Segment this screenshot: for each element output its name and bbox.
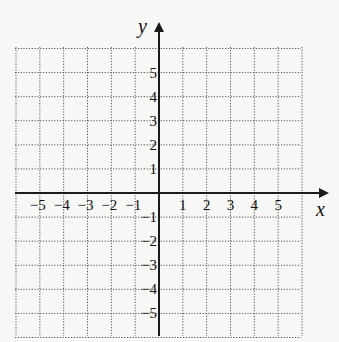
y-tick-label: −3: [141, 257, 157, 273]
y-tick-label: −1: [141, 209, 157, 225]
x-tick-label: −1: [125, 197, 141, 213]
x-tick-label: 2: [203, 197, 211, 213]
y-tick-label: −5: [141, 305, 157, 321]
x-tick-label: 1: [179, 197, 187, 213]
y-axis-label: y: [136, 15, 147, 38]
y-tick-label: 2: [150, 137, 158, 153]
x-tick-label: −3: [78, 197, 94, 213]
y-tick-label: 5: [150, 65, 158, 81]
x-tick-label: 4: [251, 197, 259, 213]
x-tick-label: 3: [227, 197, 235, 213]
y-tick-label: 3: [150, 113, 158, 129]
x-tick-label: 5: [274, 197, 282, 213]
x-tick-label: −2: [101, 197, 117, 213]
x-tick-label: −4: [54, 197, 70, 213]
y-tick-label: −4: [141, 281, 157, 297]
y-tick-label: −2: [141, 233, 157, 249]
y-tick-label: 4: [150, 89, 158, 105]
x-tick-label: −5: [30, 197, 46, 213]
x-axis-label: x: [315, 198, 325, 220]
y-tick-label: 1: [150, 161, 158, 177]
coordinate-plane: −5−4−3−2−112345 54321−1−2−3−4−5 x y: [0, 0, 339, 342]
